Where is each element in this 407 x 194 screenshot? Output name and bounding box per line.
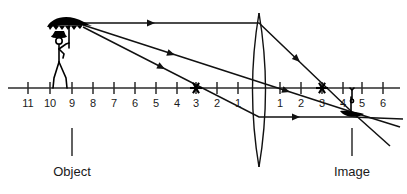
lens-ray-diagram: 1110987654321123456 bbox=[0, 0, 407, 194]
ray-diagram-canvas: 1110987654321123456 bbox=[0, 0, 407, 194]
axis-tick-label: 5 bbox=[153, 97, 159, 109]
axis-tick-label: 7 bbox=[111, 97, 117, 109]
image-caption-group: Image bbox=[334, 128, 370, 179]
axis-tick-labels: 1110987654321123456 bbox=[22, 97, 386, 109]
axis-tick-label: 11 bbox=[22, 97, 33, 109]
axis-tick-label: 6 bbox=[380, 97, 386, 109]
ray-arrowhead bbox=[292, 114, 300, 121]
axis-tick-label: 4 bbox=[174, 97, 180, 109]
converging-lens bbox=[253, 13, 266, 167]
image-caption: Image bbox=[334, 164, 370, 179]
object-caption: Object bbox=[53, 164, 91, 179]
object-caption-group: Object bbox=[53, 128, 91, 179]
axis-tick-label: 9 bbox=[69, 97, 75, 109]
leg-right bbox=[59, 62, 67, 88]
light-rays bbox=[83, 20, 403, 146]
lens-right-surface bbox=[259, 13, 266, 167]
axis-tick-label: 10 bbox=[44, 97, 56, 109]
ray-arrowhead bbox=[156, 62, 166, 72]
axis-tick-label: 2 bbox=[298, 97, 304, 109]
axis-tick-label: 3 bbox=[193, 97, 199, 109]
lens-left-surface bbox=[253, 13, 260, 167]
image-umbrella-canopy-icon bbox=[340, 111, 364, 117]
axis-tick-label: 6 bbox=[132, 97, 138, 109]
ray-arrowhead bbox=[147, 20, 155, 27]
image-head bbox=[350, 99, 353, 102]
axis-tick-label: 8 bbox=[90, 97, 96, 109]
leg-left bbox=[53, 62, 59, 88]
axis-tick-label: 5 bbox=[359, 97, 365, 109]
axis-tick-label: 2 bbox=[214, 97, 220, 109]
ray-arrowhead bbox=[166, 49, 176, 58]
axis-tick-label: 1 bbox=[277, 97, 283, 109]
